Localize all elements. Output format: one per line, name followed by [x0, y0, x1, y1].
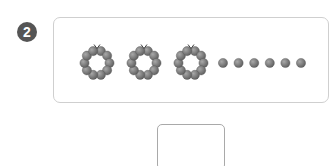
answer-input-box[interactable] — [157, 124, 225, 166]
loose-bead — [218, 58, 227, 67]
loose-bead — [250, 58, 259, 67]
bead-ring — [127, 45, 161, 80]
loose-bead — [296, 58, 305, 67]
loose-bead — [265, 58, 274, 67]
bead-ring — [80, 45, 114, 80]
bead-ring — [174, 45, 208, 80]
loose-bead — [281, 58, 290, 67]
loose-bead — [234, 58, 243, 67]
